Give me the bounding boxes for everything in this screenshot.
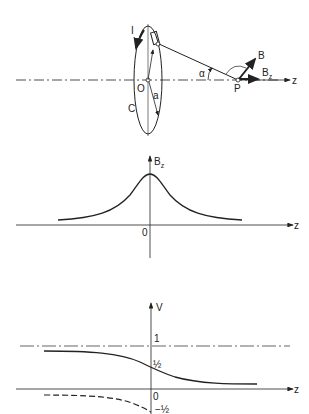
v-curve — [44, 351, 257, 384]
v-dashed-curve — [44, 395, 151, 412]
axial-field-label: Bz — [262, 67, 273, 80]
field-vector — [239, 59, 255, 79]
radius-label: a — [153, 90, 159, 101]
origin-label: O — [137, 83, 145, 94]
field-label: B — [258, 50, 265, 61]
origin-label: 0 — [153, 391, 159, 402]
current-arrow — [136, 30, 144, 48]
origin-label: 0 — [142, 227, 148, 238]
tick-one-label: 1 — [154, 333, 160, 344]
z-axis-label: z — [294, 220, 299, 231]
panel-current-loop: z O I a C α P B Bz — [16, 24, 297, 136]
tick-neg-half-label: −½ — [155, 404, 170, 414]
angle-label: α — [199, 68, 205, 79]
z-axis-label: z — [294, 384, 299, 395]
v-axis-label: V — [156, 302, 163, 313]
z-axis-label: z — [292, 75, 297, 86]
point-label: P — [234, 83, 241, 94]
current-label: I — [131, 25, 134, 36]
loop-label: C — [128, 103, 135, 114]
figure-canvas: z O I a C α P B Bz — [0, 0, 309, 414]
panel-axial-field: z Bz 0 — [16, 156, 299, 258]
radius-vector-up — [148, 50, 153, 80]
angle-arc — [208, 68, 212, 80]
bz-axis-label: Bz — [154, 156, 165, 169]
tick-half-label: ½ — [153, 359, 162, 370]
panel-potential: z V 1 ½ 0 −½ — [16, 302, 299, 414]
